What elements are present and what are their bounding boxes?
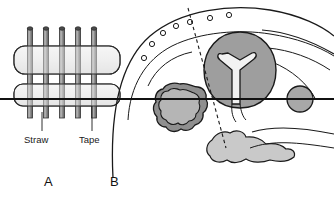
tape-label: Tape bbox=[79, 134, 100, 145]
follicle-circle bbox=[226, 12, 231, 17]
bowel-rectum-mass bbox=[207, 131, 295, 163]
follicle-circle bbox=[160, 30, 165, 35]
figure-root: Straw Tape bbox=[0, 0, 334, 197]
bowel-loop-line-upper bbox=[252, 128, 334, 134]
panel-b-group bbox=[112, 8, 334, 178]
straw-label: Straw bbox=[24, 134, 48, 145]
follicle-circle bbox=[141, 55, 146, 60]
follicle-circle bbox=[207, 15, 212, 20]
illustration-canvas: Straw Tape bbox=[0, 0, 334, 197]
tape-strip-upper-overlay bbox=[14, 46, 120, 74]
tape-strip-lower-overlay bbox=[14, 84, 120, 106]
ovary-suspensory-arc bbox=[148, 52, 192, 86]
fallopian-tube-arc-lower bbox=[268, 48, 330, 70]
panel-letter-b: B bbox=[110, 174, 119, 189]
follicle-circle bbox=[149, 41, 154, 46]
follicle-circle bbox=[173, 23, 178, 28]
panel-a-group bbox=[14, 27, 120, 131]
panel-letter-a: A bbox=[44, 174, 53, 189]
polycystic-ovary-stroma bbox=[159, 89, 200, 125]
